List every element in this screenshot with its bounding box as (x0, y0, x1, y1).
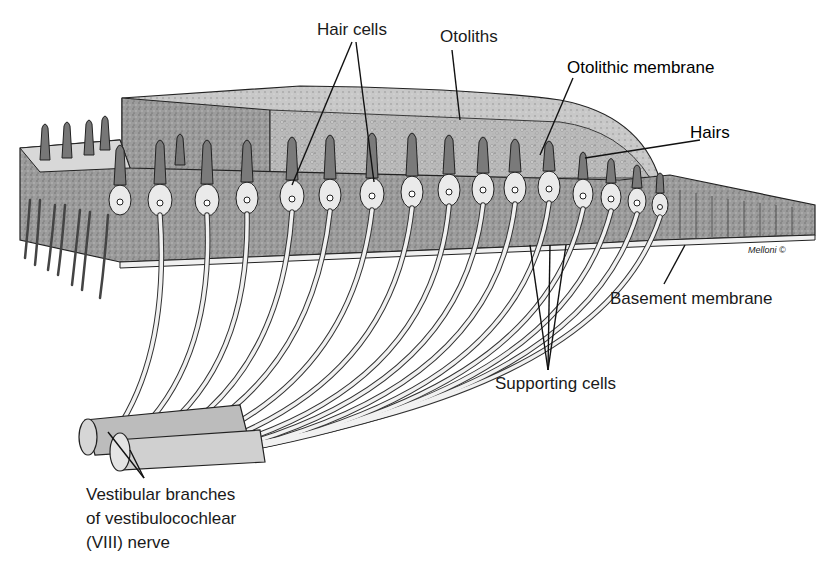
label-nerve-line1: Vestibular branches (86, 484, 235, 505)
label-supporting-cells: Supporting cells (495, 373, 616, 394)
nerve-bundle-ends (79, 405, 265, 471)
label-hairs: Hairs (690, 122, 730, 143)
macula-illustration (0, 0, 829, 561)
label-otoliths: Otoliths (440, 26, 498, 47)
label-nerve-line2: of vestibulocochlear (86, 508, 236, 529)
label-otolithic-membrane: Otolithic membrane (567, 57, 714, 78)
label-nerve-line3: (VIII) nerve (86, 532, 170, 553)
label-hair-cells: Hair cells (317, 19, 387, 40)
label-basement-membrane: Basement membrane (610, 288, 773, 309)
artist-signature: Melloni © (748, 245, 786, 255)
